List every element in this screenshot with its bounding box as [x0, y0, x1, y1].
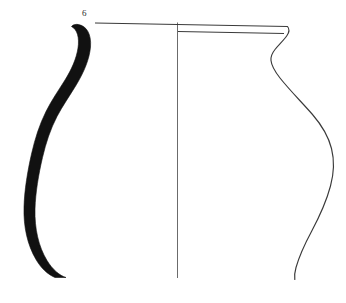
figure-number-label: 6: [82, 8, 87, 18]
drawing-background: [0, 0, 346, 303]
vessel-profile-drawing: [0, 0, 346, 303]
figure-container: 6: [0, 0, 346, 303]
